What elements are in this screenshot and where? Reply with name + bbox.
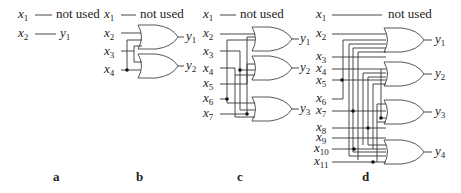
- output-y3-label: y3: [298, 100, 311, 117]
- output-y4-label: y4: [433, 143, 446, 160]
- junction-dot: [340, 78, 344, 82]
- or-gate-y1: [138, 25, 178, 49]
- wire: [358, 52, 386, 160]
- caption-d: d: [362, 169, 370, 184]
- input-x2-label: x2: [17, 25, 28, 42]
- logic-diagram: x1 not used x2 y1 a x1 not used x2 x3 x4…: [0, 0, 461, 193]
- or-gate-y2: [384, 62, 424, 86]
- caption-b: b: [136, 169, 143, 184]
- or-gate-y3: [252, 97, 292, 121]
- input-x2-label: x2: [202, 25, 213, 42]
- or-gate-y2: [138, 54, 178, 78]
- output-y1-label: y1: [58, 25, 70, 42]
- wire: [220, 37, 255, 84]
- or-gate-y2: [252, 56, 292, 80]
- wire: [227, 99, 255, 103]
- output-y2-label: y2: [433, 65, 445, 82]
- output-y2-label: y2: [298, 59, 310, 76]
- input-x4-label: x4: [103, 61, 115, 78]
- or-gate-y3: [384, 100, 424, 124]
- junction-dot: [371, 160, 375, 164]
- output-y2-label: y2: [184, 57, 196, 74]
- input-x1-label: x1: [103, 6, 114, 23]
- panel-b: x1 not used x2 x3 x4 y1 y2 b: [103, 6, 196, 184]
- junction-dot: [379, 116, 383, 120]
- junction-dot: [125, 68, 129, 72]
- wire: [220, 40, 255, 99]
- not-used-label: not used: [388, 6, 432, 21]
- wire: [332, 40, 386, 99]
- output-y1-label: y1: [433, 31, 445, 48]
- panel-d: x1 not used x2 x3 x4 x5 x6 x7 x8 x9 x10 …: [313, 6, 446, 184]
- junction-dot: [366, 126, 370, 130]
- input-x1-label: x1: [17, 6, 28, 23]
- not-used-label: not used: [140, 6, 184, 21]
- input-x2-label: x2: [315, 25, 326, 42]
- panel-c: x1 not used x2 x3 x4 x5 x6 x7 y1: [202, 6, 311, 184]
- input-x2-label: x2: [103, 25, 114, 42]
- wire: [220, 51, 255, 110]
- or-gate-y4: [384, 140, 424, 164]
- input-x1-label: x1: [315, 6, 326, 23]
- junction-dot: [245, 112, 249, 116]
- input-x7-label: x7: [202, 105, 214, 122]
- wire: [349, 44, 386, 80]
- output-y1-label: y1: [184, 28, 196, 45]
- junction-dot: [238, 68, 242, 72]
- junction-dot: [351, 109, 355, 113]
- input-x3-label: x3: [202, 43, 214, 60]
- wire: [247, 64, 255, 114]
- junction-dot: [225, 97, 229, 101]
- output-y1-label: y1: [298, 30, 310, 47]
- caption-c: c: [237, 169, 243, 184]
- junction-dot: [352, 147, 356, 151]
- or-gate-y1: [252, 27, 292, 51]
- output-y3-label: y3: [433, 103, 446, 120]
- wire: [377, 104, 386, 162]
- wire: [373, 84, 386, 149]
- not-used-label: not used: [56, 6, 100, 21]
- input-x1-label: x1: [202, 6, 213, 23]
- caption-a: a: [53, 169, 60, 184]
- input-x3-label: x3: [103, 43, 115, 60]
- panel-a: x1 not used x2 y1 a: [17, 6, 100, 184]
- or-gate-y1: [384, 28, 424, 52]
- not-used-label: not used: [240, 6, 284, 21]
